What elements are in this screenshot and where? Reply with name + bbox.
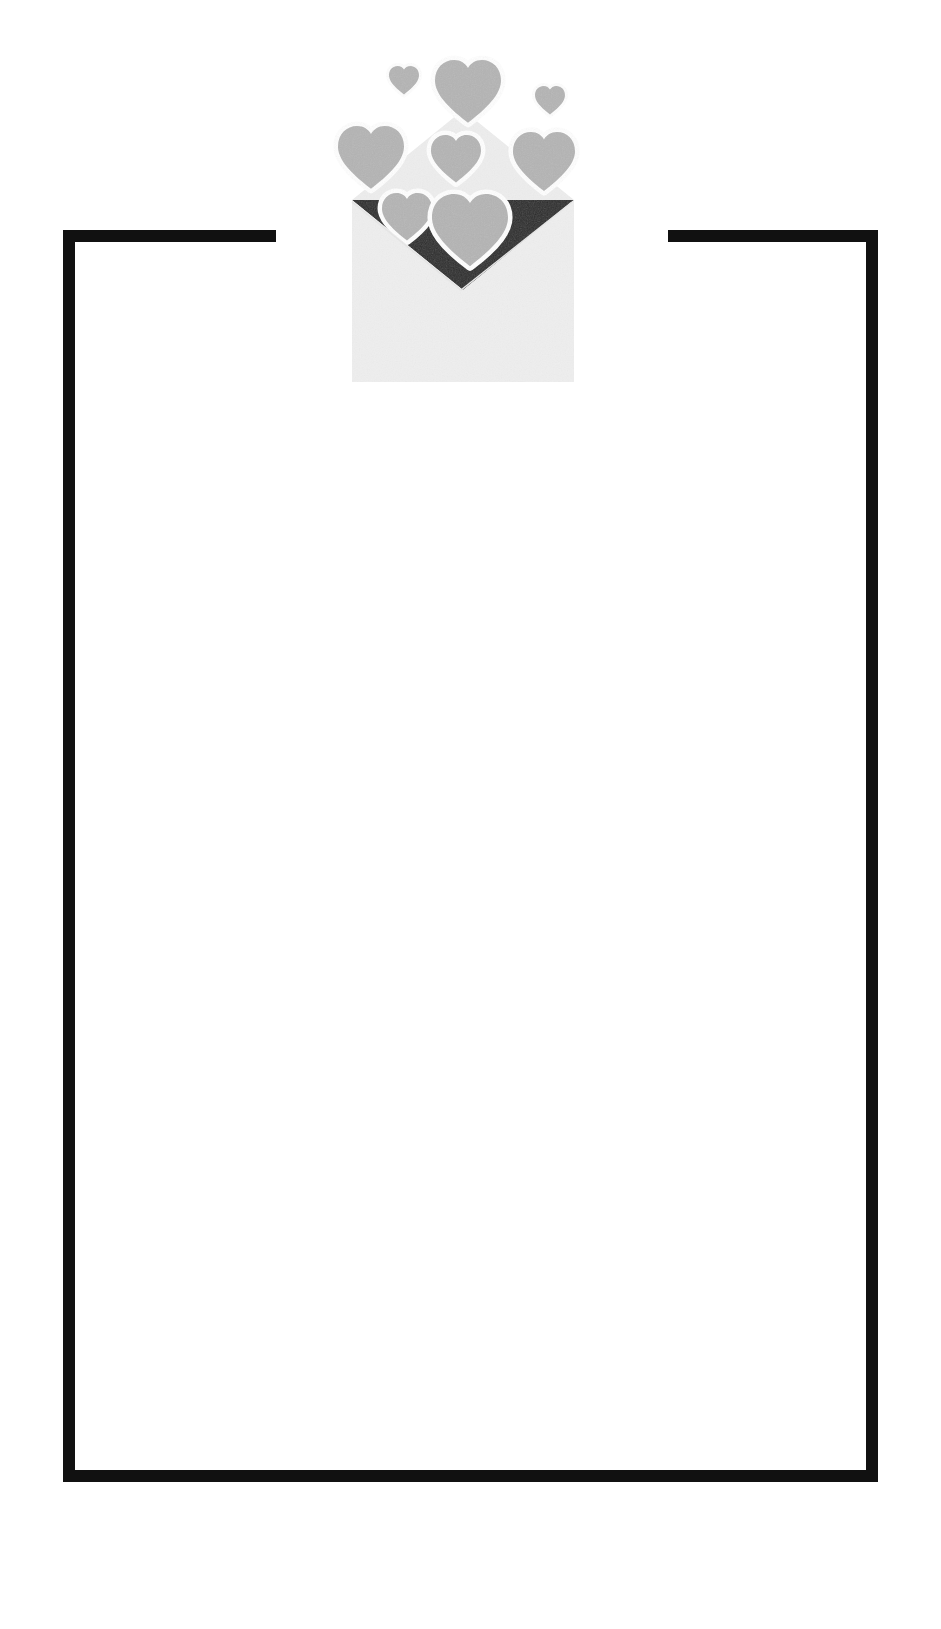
heart-float-small-left: [389, 66, 419, 95]
heart-float-small-right: [535, 86, 565, 115]
open-envelope-with-hearts: [318, 52, 608, 392]
card-canvas: [0, 0, 941, 1629]
card-border-top-right-segment: [668, 230, 878, 242]
card-border-bottom-segment: [63, 1470, 878, 1482]
blank-card-body[interactable]: [75, 242, 866, 1470]
card-border-left-segment: [63, 230, 75, 1482]
heart-float-large-center: [435, 60, 501, 123]
card-border-top-left-segment: [63, 230, 276, 242]
card-border-right-segment: [866, 230, 878, 1482]
